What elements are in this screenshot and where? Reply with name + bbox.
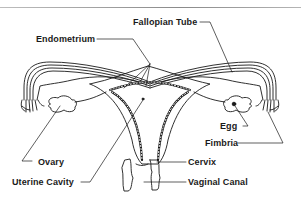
endometrium [110,82,190,160]
label-cervix: Cervix [188,157,216,167]
egg [232,102,236,106]
label-fimbria: Fimbria [205,138,238,148]
label-ovary: Ovary [38,157,64,167]
label-fallopian-tube: Fallopian Tube [133,17,197,27]
label-endometrium: Endometrium [36,34,95,44]
right-fallopian-tube [150,62,276,100]
right-fimbria [256,100,279,112]
label-vaginal-canal: Vaginal Canal [188,177,248,187]
label-uterine-cavity: Uterine Cavity [12,177,74,187]
left-ovary [49,96,77,112]
left-fimbria [21,100,44,112]
label-egg: Egg [220,121,237,131]
uterus-outer-wall [90,66,210,164]
reproductive-system-illustration [0,0,301,205]
